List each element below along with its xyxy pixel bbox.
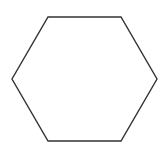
hexagon-shape [12, 17, 157, 141]
diagram-canvas [0, 0, 165, 149]
